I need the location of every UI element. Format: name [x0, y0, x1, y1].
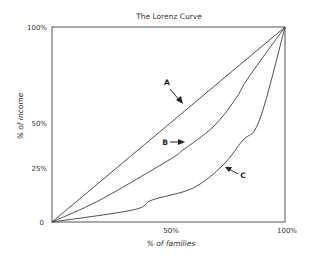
annotation-b: B	[162, 138, 185, 147]
annotation-c-arrow-icon	[229, 169, 238, 174]
curves-group	[52, 27, 285, 222]
lorenz-curve-chart: The Lorenz Curve 100% 50% 25% 0 % of inc…	[0, 0, 312, 258]
annotation-c-arrowhead-icon	[225, 167, 232, 172]
annotation-c-label: C	[240, 171, 246, 180]
x-tick-100: 100%	[277, 227, 297, 235]
y-tick-0: 0	[40, 219, 44, 227]
y-axis-label: % of income	[16, 92, 25, 139]
x-axis-label: % of families	[147, 239, 196, 248]
annotation-a: A	[164, 78, 183, 104]
annotation-c: C	[225, 167, 246, 180]
x-tick-50: 50%	[163, 227, 179, 235]
x-axis-ticks: 50% 100%	[163, 227, 297, 235]
curve-a-equality-line	[52, 27, 285, 222]
chart-title: The Lorenz Curve	[135, 12, 202, 21]
y-axis-ticks: 100% 50% 25% 0	[27, 24, 47, 227]
y-tick-50: 50%	[31, 120, 47, 128]
annotation-b-arrowhead-icon	[178, 139, 185, 145]
y-tick-100: 100%	[27, 24, 47, 32]
annotation-b-label: B	[162, 138, 168, 147]
annotation-a-label: A	[164, 78, 170, 87]
y-tick-25: 25%	[31, 165, 47, 173]
